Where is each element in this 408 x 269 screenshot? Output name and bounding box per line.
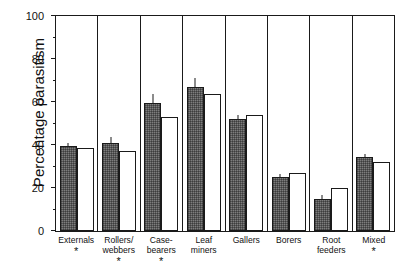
x-axis-label-line: Leaf <box>183 235 226 245</box>
bar-open <box>204 94 221 231</box>
bar-group <box>98 16 140 231</box>
y-tick-label: 60 <box>32 96 44 108</box>
x-axis-label: Leafminers* <box>183 235 226 269</box>
bar-open <box>161 117 178 231</box>
bars-container <box>268 16 309 231</box>
x-axis-label-line: Case- <box>140 235 183 245</box>
error-bar <box>152 94 153 104</box>
error-bar <box>195 78 196 88</box>
bars-container <box>183 16 224 231</box>
significance-marker: * <box>140 256 183 267</box>
x-axis-label-line: Root <box>310 235 353 245</box>
bar-group <box>183 16 225 231</box>
bar-group <box>141 16 183 231</box>
x-axis-label: Rollers/webbers* <box>98 235 141 269</box>
x-axis-label: Rootfeeders* <box>310 235 353 269</box>
x-axis-labels: Externals*Rollers/webbers*Case-bearers*L… <box>55 235 395 269</box>
bars-container <box>353 16 394 231</box>
bar-open <box>373 162 390 231</box>
bar-open <box>119 151 136 231</box>
bars-container <box>98 16 139 231</box>
bar-shaded <box>144 103 161 231</box>
error-bar <box>364 154 365 158</box>
significance-marker: * <box>353 246 396 257</box>
x-axis-label: Borers* <box>268 235 311 269</box>
bar-group <box>226 16 268 231</box>
bar-open <box>331 188 348 231</box>
y-tick-label: 0 <box>38 225 44 237</box>
bars-container <box>310 16 351 231</box>
x-axis-label-line: Mixed <box>353 235 396 245</box>
plot-area: 020406080100 <box>55 15 395 232</box>
bar-group <box>268 16 310 231</box>
bar-shaded <box>187 87 204 231</box>
x-axis-label: Externals* <box>55 235 98 269</box>
x-axis-label: Mixed* <box>353 235 396 269</box>
x-axis-label-line: miners <box>183 245 226 255</box>
x-axis-label: Gallers* <box>225 235 268 269</box>
bar-shaded <box>60 146 77 231</box>
y-tick-label: 40 <box>32 139 44 151</box>
bar-group <box>310 16 352 231</box>
x-axis-label-line: webbers <box>98 245 141 255</box>
chart-figure: Percentage parasitism 020406080100 Exter… <box>0 0 408 269</box>
significance-marker: * <box>98 256 141 267</box>
error-bar <box>237 115 238 119</box>
bar-shaded <box>356 157 373 231</box>
bar-open <box>289 173 306 231</box>
bars-container <box>141 16 182 231</box>
x-axis-label-line: Rollers/ <box>98 235 141 245</box>
error-bar <box>280 174 281 178</box>
significance-marker: * <box>55 246 98 257</box>
bar-shaded <box>229 119 246 231</box>
x-axis-label: Case-bearers* <box>140 235 183 269</box>
bar-group <box>353 16 394 231</box>
bar-shaded <box>314 199 331 231</box>
bar-group <box>56 16 98 231</box>
bar-open <box>246 115 263 231</box>
bar-open <box>77 148 94 231</box>
y-tick-label: 20 <box>32 182 44 194</box>
bars-container <box>56 16 97 231</box>
x-axis-label-line: Externals <box>55 235 98 245</box>
error-bar <box>110 137 111 144</box>
error-bar <box>322 195 323 200</box>
error-bar <box>68 143 69 147</box>
bar-groups <box>56 16 394 231</box>
bars-container <box>226 16 267 231</box>
x-axis-label-line: bearers <box>140 245 183 255</box>
bar-shaded <box>272 177 289 231</box>
x-axis-label-line: Gallers <box>225 235 268 245</box>
y-tick-label: 80 <box>32 53 44 65</box>
x-axis-label-line: feeders <box>310 245 353 255</box>
bar-shaded <box>102 143 119 231</box>
y-tick-label: 100 <box>26 10 44 22</box>
x-axis-label-line: Borers <box>268 235 311 245</box>
